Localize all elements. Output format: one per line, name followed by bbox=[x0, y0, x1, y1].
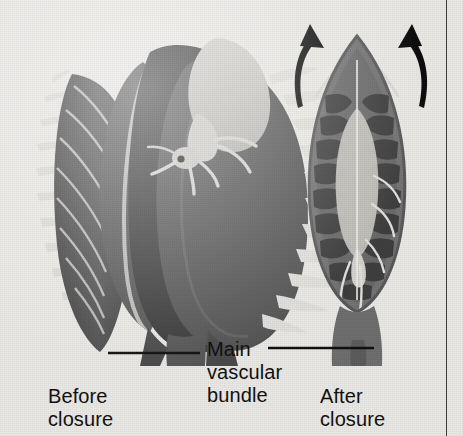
specimen-after-closure bbox=[295, 24, 427, 366]
petiole-before bbox=[166, 332, 205, 366]
figure-panel: Main vascular bundle Before closure Afte… bbox=[0, 0, 463, 436]
plate-border-rule bbox=[446, 0, 447, 436]
label-before-closure: Before closure bbox=[48, 385, 113, 431]
petiole-core-after bbox=[350, 340, 366, 366]
arrow-left-head bbox=[300, 24, 324, 48]
arrow-right-head bbox=[398, 24, 422, 48]
label-main-vascular-bundle: Main vascular bundle bbox=[207, 338, 282, 407]
arrow-right-shaft bbox=[410, 40, 427, 108]
insect-head bbox=[172, 147, 200, 169]
label-after-closure: After closure bbox=[320, 385, 385, 431]
insect-eye bbox=[177, 155, 184, 162]
